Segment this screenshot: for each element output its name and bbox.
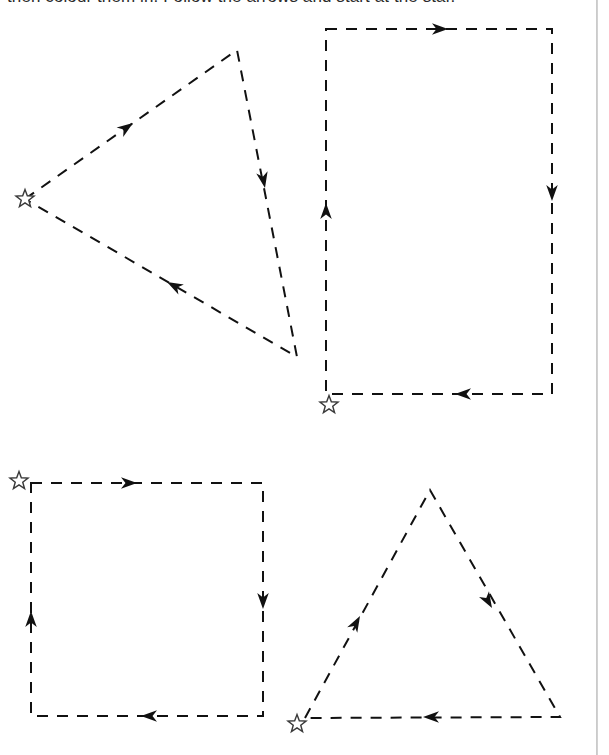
rectangle-top-right-start-star-icon	[320, 396, 338, 413]
triangle-top-left-start-star-icon	[16, 190, 34, 207]
page-edge-artifact	[596, 0, 598, 755]
square-bottom-left-start-star-icon	[10, 472, 28, 489]
arrow-bottom-edge	[455, 388, 471, 400]
shapes-layer	[10, 23, 560, 731]
arrow-left-edge	[347, 613, 365, 633]
triangle-bottom-right	[288, 490, 560, 732]
rectangle-top-right	[320, 23, 558, 412]
arrow-bottom-edge	[141, 710, 157, 722]
arrow-lower-edge	[164, 277, 184, 295]
triangle-bottom-right-outline	[305, 490, 560, 718]
triangle-top-left	[16, 50, 297, 357]
arrow-left-edge	[320, 203, 332, 219]
arrow-upper-left-edge	[117, 118, 137, 137]
shapes-figure	[0, 0, 609, 755]
arrow-top-edge	[121, 477, 137, 489]
triangle-bottom-right-start-star-icon	[288, 715, 306, 732]
triangle-top-left-outline	[25, 50, 297, 357]
square-bottom-left	[10, 472, 269, 722]
worksheet-page: then colour them in. Follow the arrows a…	[0, 0, 609, 755]
rectangle-top-right-outline	[326, 29, 552, 394]
square-bottom-left-outline	[31, 483, 263, 716]
arrow-right-edge	[256, 171, 270, 189]
